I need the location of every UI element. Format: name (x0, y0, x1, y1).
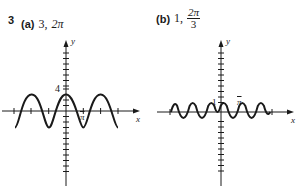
graph-b-y-arrow-icon (219, 40, 224, 47)
graph-b-x-arrow-icon (287, 110, 294, 115)
graph-b (0, 0, 304, 189)
graph-b-y-label: y (226, 36, 230, 46)
graph-b-x-label: x (291, 115, 295, 125)
graph-b-pi-label: π (237, 97, 242, 107)
graph-b-peak-label: 1 (212, 97, 217, 107)
